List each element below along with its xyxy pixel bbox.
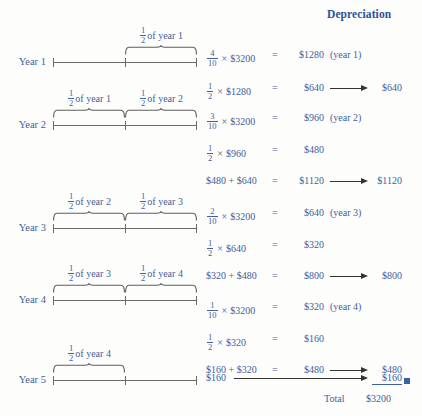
equation-eq4-equals: = [272,144,278,155]
equation-eq7-equals: = [272,239,278,250]
equation-eq3-note: (year 2) [330,112,361,123]
equation-eq3-lhs: 310×$3200 [206,112,255,131]
brace-caption-text-2-1: of year 1 [75,93,111,104]
equation-eq3-denominator: 10 [207,121,218,131]
brace-caption-4-1: 12of year 3 [49,264,129,283]
equation-eq3-equals: = [272,112,278,123]
brace-caption-3-1: 12of year 2 [49,192,129,211]
equation-eq5-left: $480 + $640 [206,175,257,186]
equation-eq3-result: $960 [290,112,324,123]
arrow-head [361,367,368,373]
arrow-eq12 [234,374,368,382]
brace-caption-4-2-denominator: 2 [140,273,146,283]
brace-caption-text-1-1: of year 1 [147,30,183,41]
equation-eq8-equals: = [272,270,278,281]
brace-3-1 [53,211,125,220]
equation-eq2-operand: $1280 [226,86,251,97]
arrow-eq11 [330,366,368,374]
arrow-shaft [330,276,361,277]
timeline-year-4 [53,296,197,305]
end-of-proof-marker [404,378,410,384]
equation-eq9-equals: = [272,301,278,312]
brace-caption-5-1-fraction: 12 [68,344,74,363]
arrow-shaft [330,88,361,89]
brace-caption-2-1-denominator: 2 [68,98,74,108]
equation-eq9-numerator: 1 [207,301,218,310]
brace-caption-3-2-fraction: 12 [140,192,146,211]
tick-end [196,224,197,233]
arrow-eq8 [330,272,368,280]
equation-eq12-lhs: $160 [206,372,226,383]
equation-eq1-denominator: 10 [207,58,218,68]
equation-eq10-lhs: 12×$320 [206,333,246,352]
equation-eq9-note: (year 4) [330,301,361,312]
equation-eq4-numerator: 1 [207,144,213,153]
equation-eq3-times: × [219,116,231,127]
year-label-4: Year 4 [0,294,46,305]
equation-eq10-operand: $320 [226,337,246,348]
brace-caption-5-1-numerator: 1 [68,344,74,353]
brace-caption-text-5-1: of year 4 [75,348,111,359]
equation-eq7-fraction: 12 [207,239,213,258]
equation-eq2-times: × [214,86,226,97]
brace-caption-2-2-fraction: 12 [140,89,146,108]
equation-eq9-denominator: 10 [207,310,218,320]
equation-eq2-lhs: 12×$1280 [206,82,251,101]
brace-caption-2-2-denominator: 2 [140,98,146,108]
arrow-eq5 [330,177,368,185]
equation-eq2-equals: = [272,82,278,93]
brace-caption-2-1-fraction: 12 [68,89,74,108]
tick-start [53,58,54,67]
tick-mid [125,224,126,233]
brace-caption-3-1-denominator: 2 [68,201,74,211]
tick-end [196,296,197,305]
equation-eq10-result: $160 [290,333,324,344]
equation-eq4-lhs: 12×$960 [206,144,246,163]
equation-eq5-result: $1120 [290,175,324,186]
brace-caption-2-2: 12of year 2 [121,89,201,108]
equation-eq9-fraction: 110 [207,301,218,320]
equation-eq6-equals: = [272,207,278,218]
equation-eq9-operand: $3200 [230,305,255,316]
arrow-shaft [330,181,361,182]
tick-end [196,121,197,130]
equation-eq2-denominator: 2 [207,91,213,101]
arrow-shaft [234,378,361,379]
brace-caption-2-1: 12of year 1 [49,89,129,108]
brace-caption-text-4-1: of year 3 [75,268,111,279]
equation-eq6-numerator: 2 [207,207,218,216]
equation-eq7-result: $320 [290,239,324,250]
brace-caption-text-3-1: of year 2 [75,196,111,207]
equation-eq5-equals: = [272,175,278,186]
equation-eq1-equals: = [272,49,278,60]
depreciation-value-eq5: $1120 [372,175,402,186]
equation-eq10-equals: = [272,333,278,344]
equation-eq10-denominator: 2 [207,342,213,352]
equation-eq1-numerator: 4 [207,49,218,58]
arrow-head [361,178,368,184]
brace-5-1 [53,363,125,372]
equation-eq6-result: $640 [290,207,324,218]
equation-eq6-denominator: 10 [207,216,218,226]
equation-eq4-operand: $960 [226,148,246,159]
equation-eq6-note: (year 3) [330,207,361,218]
brace-caption-1-1-numerator: 1 [140,26,146,35]
tick-start [53,121,54,130]
equation-eq3-numerator: 3 [207,112,218,121]
brace-caption-text-2-2: of year 2 [147,93,183,104]
page-title: Depreciation [327,8,391,20]
equation-eq1-fraction: 410 [207,49,218,68]
equation-eq8-lhs: $320 + $480 [206,270,257,281]
brace-caption-4-1-numerator: 1 [68,264,74,273]
brace-2-1 [53,108,125,117]
timeline-year-2 [53,121,197,130]
brace-caption-text-4-2: of year 4 [147,268,183,279]
equation-eq9-lhs: 110×$3200 [206,301,255,320]
brace-caption-4-1-fraction: 12 [68,264,74,283]
equation-eq1-operand: $3200 [230,53,255,64]
tick-start [53,296,54,305]
brace-caption-3-1-numerator: 1 [68,192,74,201]
brace-caption-1-1: 12of year 1 [121,26,201,45]
equation-eq9-result: $320 [290,301,324,312]
timeline-year-1 [53,58,197,67]
